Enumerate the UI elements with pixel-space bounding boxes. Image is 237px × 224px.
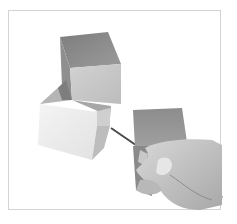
hand — [136, 139, 222, 210]
drawing-illustration — [0, 0, 237, 224]
